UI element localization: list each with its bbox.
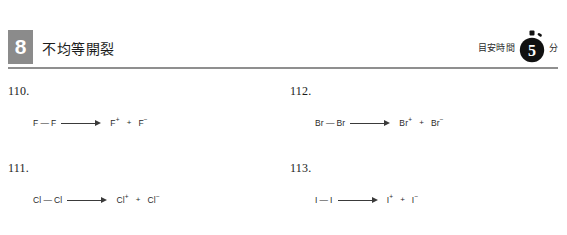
estimated-time-label: 目安時間 xyxy=(478,41,515,64)
stopwatch-icon: 5 xyxy=(518,30,546,64)
plus-sign: + xyxy=(393,195,412,205)
problem-number: 110. xyxy=(8,84,148,98)
worksheet-header: 8 不均等開裂 目安時間 5 分 xyxy=(0,0,567,72)
arrow-right-icon xyxy=(67,196,111,205)
plus-sign: + xyxy=(120,118,139,128)
reaction-equation: F — F F+ + F− xyxy=(33,118,148,128)
plus-sign: + xyxy=(412,118,431,128)
anion-charge: − xyxy=(414,193,418,200)
page-title: 不均等開裂 xyxy=(42,41,115,57)
reactant-right-atom: Br xyxy=(336,118,345,128)
reactant-right-atom: I xyxy=(330,195,333,205)
reactant-right-atom: Cl xyxy=(54,195,62,205)
problem-item: 110. F — F F+ + F− xyxy=(8,84,148,128)
reactant-left-atom: Br xyxy=(315,118,324,128)
problem-item: 112. Br — Br Br+ + Br− xyxy=(290,84,444,128)
product-anion: F− xyxy=(138,118,147,128)
product-cation: F+ xyxy=(110,118,119,128)
problem-number: 111. xyxy=(8,161,160,175)
reactant-left-atom: Cl xyxy=(33,195,41,205)
problem-number: 113. xyxy=(290,161,418,175)
reactant-right-atom: F xyxy=(51,118,56,128)
arrow-right-icon xyxy=(338,196,382,205)
section-number-badge: 8 xyxy=(8,30,33,64)
anion-charge: − xyxy=(144,116,148,123)
product-anion: Cl− xyxy=(147,195,159,205)
anion-charge: − xyxy=(440,116,444,123)
product-cation: Cl+ xyxy=(116,195,128,205)
anion-charge: − xyxy=(156,193,160,200)
arrow-right-icon xyxy=(350,119,394,128)
bond-dash: — xyxy=(318,195,331,205)
problem-item: 113. I — I I+ + I− xyxy=(290,161,418,205)
bond-dash: — xyxy=(38,118,51,128)
reaction-equation: Cl — Cl Cl+ + Cl− xyxy=(33,195,160,205)
product-cation: Br+ xyxy=(399,118,412,128)
problem-number: 112. xyxy=(290,84,444,98)
product-anion: Br− xyxy=(431,118,444,128)
stopwatch-value: 5 xyxy=(528,42,536,59)
plus-sign: + xyxy=(129,195,148,205)
reaction-equation: Br — Br Br+ + Br− xyxy=(315,118,444,128)
bond-dash: — xyxy=(41,195,54,205)
bond-dash: — xyxy=(324,118,337,128)
product-anion: I− xyxy=(412,195,419,205)
problem-item: 111. Cl — Cl Cl+ + Cl− xyxy=(8,161,160,205)
estimated-time-block: 目安時間 5 分 xyxy=(478,24,558,64)
arrow-right-icon xyxy=(61,119,105,128)
header-divider xyxy=(8,67,558,69)
estimated-time-unit: 分 xyxy=(549,41,558,64)
reaction-equation: I — I I+ + I− xyxy=(315,195,418,205)
